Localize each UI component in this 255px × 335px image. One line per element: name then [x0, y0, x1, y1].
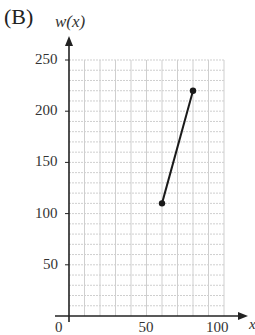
data-point	[190, 88, 196, 94]
data-point	[159, 200, 165, 206]
y-tick-label: 100	[35, 206, 58, 221]
x-axis-arrow-icon	[238, 312, 248, 320]
x-axis-label: x	[249, 316, 255, 333]
x-tick-label: 100	[206, 320, 229, 335]
x-tick-label: 0	[55, 320, 63, 335]
x-tick-label: 50	[139, 320, 154, 335]
y-tick-label: 200	[35, 103, 58, 118]
y-tick-label: 150	[35, 154, 58, 169]
y-axis-arrow-icon	[65, 36, 73, 46]
y-tick-label: 50	[43, 257, 58, 272]
y-tick-label: 250	[35, 52, 58, 67]
panel-label: (B)	[4, 6, 33, 28]
y-axis-label: w(x)	[55, 12, 85, 32]
